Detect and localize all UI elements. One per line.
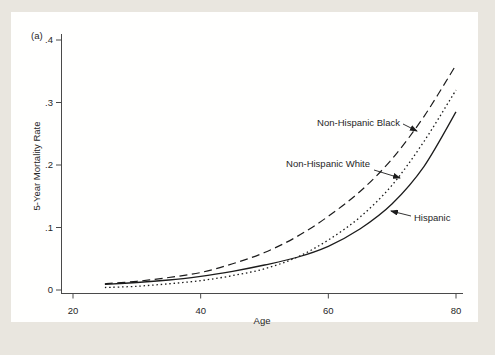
- data-series-curves: [105, 65, 456, 288]
- annotation-hispanic: Hispanic: [391, 211, 451, 223]
- panel-label: (a): [31, 30, 43, 41]
- x-axis-ticks: 20406080: [68, 294, 462, 316]
- y-axis-ticks: 0.1.2.3.4: [45, 34, 61, 295]
- annotation-non-hispanic-black: Non-Hispanic Black: [317, 117, 417, 131]
- annotation-arrow-non-hispanic-black: [403, 124, 417, 131]
- series-line-non-hispanic-black: [105, 65, 456, 284]
- y-tick-label: .2: [45, 159, 53, 170]
- y-tick-label: .4: [45, 34, 53, 45]
- x-tick-label: 60: [323, 305, 334, 316]
- x-tick-label: 40: [195, 305, 206, 316]
- mortality-line-chart: (a) Age 5-Year Mortality Rate 0.1.2.3.4 …: [0, 0, 495, 355]
- y-tick-label: .1: [45, 222, 53, 233]
- y-tick-label: .3: [45, 97, 53, 108]
- annotation-label-non-hispanic-black: Non-Hispanic Black: [317, 117, 400, 128]
- x-axis-title: Age: [254, 315, 271, 326]
- series-line-non-hispanic-white: [105, 90, 456, 288]
- y-tick-label: 0: [48, 284, 53, 295]
- annotation-label-non-hispanic-white: Non-Hispanic White: [286, 158, 370, 169]
- figure: (a) Age 5-Year Mortality Rate 0.1.2.3.4 …: [0, 0, 495, 355]
- annotation-non-hispanic-white: Non-Hispanic White: [286, 158, 400, 178]
- annotation-label-hispanic: Hispanic: [414, 212, 451, 223]
- annotation-arrow-hispanic: [391, 211, 411, 216]
- series-annotations: Non-Hispanic Black Non-Hispanic White Hi…: [286, 117, 451, 223]
- series-line-hispanic: [105, 112, 456, 285]
- x-tick-label: 20: [68, 305, 79, 316]
- y-axis-title: 5-Year Mortality Rate: [31, 122, 42, 211]
- x-tick-label: 80: [451, 305, 462, 316]
